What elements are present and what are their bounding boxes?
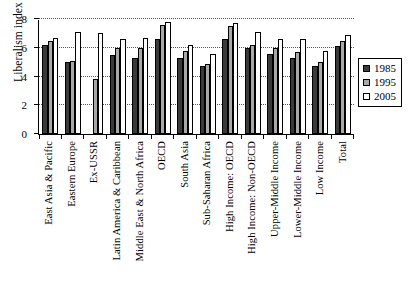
x-axis-label: South Asia (180, 141, 191, 188)
x-axis-tick (197, 134, 220, 139)
x-axis-label-cell: Upper-Middle Income (264, 141, 287, 251)
y-axis-tick-label: 0 (22, 128, 28, 140)
x-axis-tick (39, 134, 62, 139)
x-axis-label: Upper-Middle Income (270, 141, 281, 237)
x-axis-label: Sub-Saharan Africa (202, 141, 213, 225)
plot-area: 02468 (38, 20, 354, 135)
y-axis-tick-label: 8 (22, 13, 28, 25)
x-axis-label-cell: High Income: Non-OECD (241, 141, 264, 251)
bar (75, 32, 80, 134)
legend-swatch-icon (363, 65, 370, 72)
bar-group (62, 20, 85, 134)
legend-swatch-icon (363, 93, 370, 100)
x-axis-label: High Income: Non-OECD (247, 141, 258, 254)
x-axis-label: Total (338, 141, 349, 163)
legend-label: 1995 (374, 76, 396, 90)
x-axis-tick (107, 134, 130, 139)
x-axis-label-cell: Ex-USSR (83, 141, 106, 251)
bar (53, 38, 58, 134)
bar (120, 39, 125, 134)
x-axis-label: OECD (157, 141, 168, 170)
bar-group (39, 20, 62, 134)
x-axis-tick (309, 134, 332, 139)
x-axis-label-cell: Eastern Europe (61, 141, 84, 251)
bar (143, 38, 148, 134)
legend-item: 1985 (363, 62, 396, 76)
bar-group (242, 20, 265, 134)
x-axis-tick (219, 134, 242, 139)
bar-group (152, 20, 175, 134)
y-axis-tick-label: 2 (22, 99, 28, 111)
bar (233, 23, 238, 134)
x-axis-label-cell: OECD (151, 141, 174, 251)
legend-item: 1995 (363, 76, 396, 90)
x-axis-label: Middle East & North Africa (134, 141, 145, 261)
x-axis-label-cell: High Income: OECD (219, 141, 242, 251)
y-axis-tick-label: 4 (22, 71, 28, 83)
bar (323, 51, 328, 134)
bar-group (264, 20, 287, 134)
x-axis-tick (152, 134, 175, 139)
bar-group (84, 20, 107, 134)
x-axis-label-cell: South Asia (173, 141, 196, 251)
bar-group (332, 20, 355, 134)
chart-legend: 198519952005 (358, 58, 402, 107)
x-axis-tick (62, 134, 85, 139)
bar-group (174, 20, 197, 134)
x-axis-label: Latin America & Caribbean (112, 141, 123, 260)
bar (278, 39, 283, 134)
bar (255, 32, 260, 134)
legend-label: 2005 (374, 90, 396, 104)
x-axis-label-cell: Latin America & Caribbean (106, 141, 129, 251)
x-axis-label: Eastern Europe (67, 141, 78, 207)
x-axis-label: East Asia & Pacific (44, 141, 55, 225)
legend-item: 2005 (363, 90, 396, 104)
bar (188, 45, 193, 134)
bar (345, 35, 350, 134)
legend-swatch-icon (363, 79, 370, 86)
y-axis-tick: 8 (34, 18, 39, 19)
bar-group (219, 20, 242, 134)
x-axis-label: Low Income (315, 141, 326, 195)
bar-group (129, 20, 152, 134)
bar (300, 39, 305, 134)
x-axis-tick (264, 134, 287, 139)
x-axis-tick (242, 134, 265, 139)
x-axis-tick (332, 134, 355, 139)
x-axis-label-cell: East Asia & Pacific (38, 141, 61, 251)
x-axis-labels: East Asia & PacificEastern EuropeEx-USSR… (38, 141, 354, 251)
x-axis-label-cell: Low Income (309, 141, 332, 251)
bar-groups (39, 20, 354, 134)
bar-group (287, 20, 310, 134)
x-axis-label: Lower-Middle Income (292, 141, 303, 238)
x-axis-tick (287, 134, 310, 139)
liberalism-index-bar-chart: Liberalism index 02468 East Asia & Pacif… (0, 0, 415, 283)
x-axis-label-cell: Total (332, 141, 355, 251)
bar (98, 33, 103, 134)
x-axis-tick (84, 134, 107, 139)
x-axis-tick (129, 134, 152, 139)
bar (210, 54, 215, 135)
bar-group (197, 20, 220, 134)
bar-group (309, 20, 332, 134)
x-axis-label-cell: Middle East & North Africa (128, 141, 151, 251)
x-axis-label-cell: Sub-Saharan Africa (196, 141, 219, 251)
y-axis-tick-label: 6 (22, 42, 28, 54)
x-axis-label: Ex-USSR (89, 141, 100, 183)
x-axis-ticks (39, 134, 354, 139)
x-axis-label: High Income: OECD (225, 141, 236, 232)
bar (165, 22, 170, 134)
bar-group (107, 20, 130, 134)
gridline (39, 18, 354, 19)
x-axis-tick (174, 134, 197, 139)
legend-label: 1985 (374, 62, 396, 76)
x-axis-label-cell: Lower-Middle Income (286, 141, 309, 251)
